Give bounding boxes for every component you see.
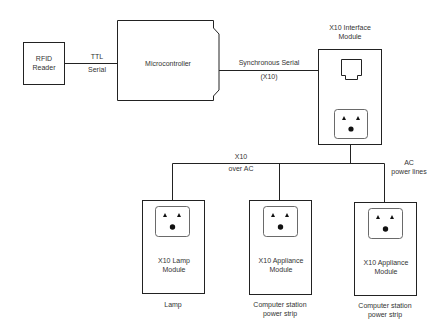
appliance-1-caption-line1: Computer station [253, 300, 306, 309]
ac-power-line2: power lines [391, 167, 426, 176]
sync-line1: Synchronous Serial [239, 58, 300, 67]
sync-line2: (X10) [239, 72, 300, 81]
appliance-2-line1: X10 Appliance [364, 258, 409, 267]
appliance-1-caption: Computer station power strip [253, 300, 306, 318]
microcontroller-label: Microcontroller [145, 59, 191, 68]
x10-interface-line1: X10 Interface [329, 23, 371, 32]
ac-power-line1: AC [391, 158, 426, 167]
appliance-2-caption-line1: Computer station [358, 301, 411, 310]
x10-appliance-module-1-box: X10 Appliance Module [249, 200, 312, 295]
lamp-module-line1: X10 Lamp [158, 256, 190, 265]
rfid-line2: Reader [33, 63, 56, 72]
ttl-serial-label: TTL Serial [88, 52, 106, 74]
x10-interface-box [318, 49, 382, 145]
ac-power-lines-label: AC power lines [391, 158, 426, 176]
x10-over-ac-label: X10 over AC [229, 152, 254, 173]
lamp-module-line2: Module [158, 265, 190, 274]
appliance-1-line2: Module [259, 265, 304, 274]
outlet-icon [335, 110, 368, 139]
rj-jack-icon [342, 60, 362, 80]
lamp-caption: Lamp [164, 300, 182, 309]
appliance-1-caption-line2: power strip [253, 309, 306, 318]
appliance-2-line2: Module [364, 267, 409, 276]
appliance-2-caption: Computer station power strip [358, 301, 411, 319]
outlet-icon [369, 209, 403, 239]
ac-bus-line2: over AC [229, 164, 254, 173]
x10-appliance-module-2-box: X10 Appliance Module [354, 202, 417, 296]
ttl-line2: Serial [88, 65, 106, 74]
outlet-icon [264, 207, 298, 237]
appliance-module-1-label: X10 Appliance Module [259, 256, 304, 274]
sync-serial-label: Synchronous Serial (X10) [239, 58, 300, 81]
outlet-icon [156, 207, 190, 237]
rfid-line1: RFID [33, 54, 56, 63]
x10-lamp-module-box: X10 Lamp Module [142, 200, 205, 294]
rfid-reader-label: RFID Reader [33, 54, 56, 72]
x10-interface-label: X10 Interface Module [329, 23, 371, 41]
x10-interface-line2: Module [329, 32, 371, 41]
ac-bus-line1: X10 [229, 152, 254, 161]
appliance-module-2-label: X10 Appliance Module [364, 258, 409, 276]
lamp-module-label: X10 Lamp Module [158, 256, 190, 274]
appliance-1-line1: X10 Appliance [259, 256, 304, 265]
ttl-line1: TTL [88, 52, 106, 61]
appliance-2-caption-line2: power strip [358, 310, 411, 319]
